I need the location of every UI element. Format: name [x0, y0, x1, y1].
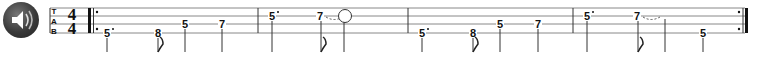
tie-slur [643, 17, 660, 20]
empty-note-circle[interactable] [339, 10, 352, 23]
tab-clef-letter: A [51, 17, 57, 26]
dot-marker [277, 11, 279, 13]
fret-number[interactable]: 7 [535, 18, 541, 30]
eighth-flag [321, 37, 326, 52]
fret-number[interactable]: 7 [317, 10, 323, 22]
fret-number[interactable]: 7 [219, 18, 225, 30]
fret-number[interactable]: 5 [419, 27, 425, 39]
fret-number[interactable]: 5 [269, 10, 275, 22]
tab-clef-letter: T [52, 7, 57, 16]
fret-number[interactable]: 5 [182, 18, 188, 30]
repeat-dot [96, 28, 98, 30]
eighth-flag [473, 37, 478, 52]
repeat-dot [738, 11, 740, 13]
tab-clef-letter: B [51, 27, 57, 36]
end-repeat-thick-bar [745, 8, 748, 33]
start-repeat-thick-bar [88, 8, 91, 33]
repeat-dot [738, 28, 740, 30]
eighth-flag [638, 37, 643, 52]
dot-marker [427, 28, 429, 30]
bass-tab-staff: TAB445857575857575 [0, 0, 760, 58]
fret-number[interactable]: 5 [700, 27, 706, 39]
time-signature-bottom: 4 [68, 19, 77, 38]
eighth-flag [158, 37, 163, 52]
repeat-dot [96, 11, 98, 13]
dot-marker [112, 28, 114, 30]
fret-number[interactable]: 5 [584, 10, 590, 22]
fret-number[interactable]: 7 [634, 10, 640, 22]
fret-number[interactable]: 5 [104, 27, 110, 39]
dot-marker [592, 11, 594, 13]
fret-number[interactable]: 5 [497, 18, 503, 30]
